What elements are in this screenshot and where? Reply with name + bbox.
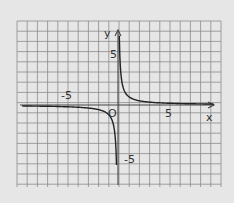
x-axis-label: x [206,111,213,124]
y-tick-pos5: 5 [110,48,117,61]
x-tick-pos5: 5 [165,107,172,120]
curve-negative-branch [22,106,117,165]
curve-positive-branch [119,36,214,104]
y-axis-label: y [104,27,111,40]
y-tick-neg5: -5 [124,153,135,166]
hyperbola-graph: y x O -5 5 5 -5 [0,0,234,203]
x-tick-neg5: -5 [61,89,72,102]
origin-label: O [108,107,117,120]
